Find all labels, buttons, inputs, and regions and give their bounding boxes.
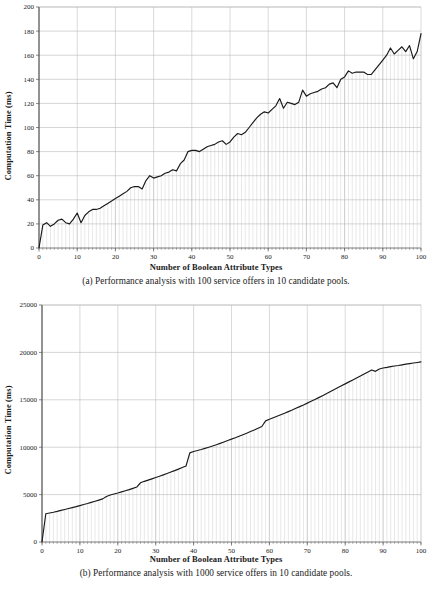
x-tick-label: 90 bbox=[379, 253, 387, 261]
chart-a-container: Computation Time (ms) 020406080100120140… bbox=[0, 0, 432, 272]
y-tick-label: 5000 bbox=[23, 491, 38, 499]
y-tick-label: 15000 bbox=[20, 396, 38, 404]
y-tick-label: 40 bbox=[27, 196, 35, 204]
y-tick-label: 120 bbox=[24, 100, 35, 108]
x-tick-label: 20 bbox=[112, 253, 120, 261]
x-tick-label: 50 bbox=[227, 253, 235, 261]
x-tick-label: 30 bbox=[150, 253, 158, 261]
y-tick-label: 0 bbox=[31, 244, 35, 252]
x-tick-label: 10 bbox=[74, 253, 82, 261]
y-tick-label: 100 bbox=[24, 124, 35, 132]
y-tick-label: 0 bbox=[34, 538, 38, 546]
y-tick-label: 20 bbox=[27, 220, 35, 228]
x-tick-label: 70 bbox=[303, 253, 311, 261]
y-tick-label: 10000 bbox=[20, 444, 38, 452]
y-tick-label: 140 bbox=[24, 76, 35, 84]
x-tick-label: 100 bbox=[416, 253, 427, 261]
x-tick-label: 80 bbox=[341, 253, 349, 261]
y-tick-label: 25000 bbox=[20, 301, 38, 309]
y-tick-label: 20000 bbox=[20, 349, 38, 357]
y-tick-label: 60 bbox=[27, 172, 35, 180]
x-tick-label: 60 bbox=[265, 253, 273, 261]
y-tick-label: 180 bbox=[24, 28, 35, 36]
y-tick-label: 160 bbox=[24, 52, 35, 60]
x-tick-label: 0 bbox=[37, 253, 41, 261]
figure-a-caption: (a) Performance analysis with 100 servic… bbox=[0, 276, 432, 286]
x-tick-label: 40 bbox=[188, 253, 196, 261]
chart-a-plot: 0204060801001201401601802000102030405060… bbox=[0, 0, 432, 272]
y-tick-label: 80 bbox=[27, 148, 35, 156]
chart-b-plot: 0500010000150002000025000010203040506070… bbox=[0, 296, 432, 564]
y-tick-label: 200 bbox=[24, 3, 35, 11]
droplines bbox=[46, 362, 421, 542]
chart-b-container: Computation Time (ms) 050001000015000200… bbox=[0, 296, 432, 564]
figure-a: Computation Time (ms) 020406080100120140… bbox=[0, 0, 432, 296]
figure-b: Computation Time (ms) 050001000015000200… bbox=[0, 296, 432, 592]
figure-b-caption: (b) Performance analysis with 1000 servi… bbox=[0, 568, 432, 578]
chart-a-x-axis-label: Number of Boolean Attribute Types bbox=[0, 262, 432, 272]
chart-b-x-axis-label: Number of Boolean Attribute Types bbox=[0, 554, 432, 564]
droplines bbox=[43, 34, 421, 248]
